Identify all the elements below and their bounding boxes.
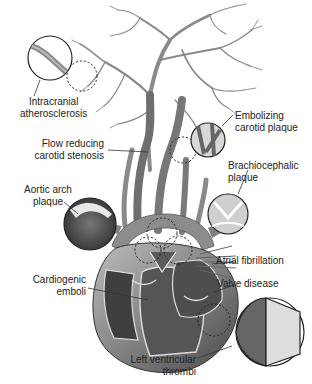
label-line: emboli <box>20 286 86 298</box>
label-line: Embolizing <box>235 110 298 122</box>
label-line: plaque <box>228 172 299 184</box>
label-cardiogenic-emboli: Cardiogenic emboli <box>20 274 86 298</box>
label-embolizing-carotid-plaque: Embolizing carotid plaque <box>235 110 298 134</box>
label-line: Brachiocephalic <box>228 160 299 172</box>
label-valve-disease: Valve disease <box>217 278 279 290</box>
stroke-sources-diagram: Intracranial atherosclerosis Embolizing … <box>0 0 312 384</box>
label-aortic-arch-plaque: Aortic arch plaque <box>18 184 78 208</box>
label-line: Intracranial <box>20 96 87 108</box>
label-line: Aortic arch <box>18 184 78 196</box>
brachiocephalic-magnifier <box>208 194 248 234</box>
neck-arteries <box>124 95 206 232</box>
label-line: carotid plaque <box>235 122 298 134</box>
label-line: thrombi <box>116 366 196 378</box>
label-line: Flow reducing <box>34 138 104 150</box>
label-flow-reducing-carotid-stenosis: Flow reducing carotid stenosis <box>34 138 104 162</box>
label-line: Cardiogenic <box>20 274 86 286</box>
label-brachiocephalic-plaque: Brachiocephalic plaque <box>228 160 299 184</box>
label-line: carotid stenosis <box>34 150 104 162</box>
label-atrial-fibrillation: Atrial fibrillation <box>216 255 284 267</box>
label-line: Atrial fibrillation <box>216 255 284 267</box>
label-intracranial-atherosclerosis: Intracranial atherosclerosis <box>20 96 87 120</box>
label-left-ventricular-thrombi: Left ventricular thrombi <box>116 354 196 378</box>
label-line: Left ventricular <box>116 354 196 366</box>
label-line: plaque <box>18 196 78 208</box>
label-line: Valve disease <box>217 278 279 290</box>
label-line: atherosclerosis <box>20 108 87 120</box>
